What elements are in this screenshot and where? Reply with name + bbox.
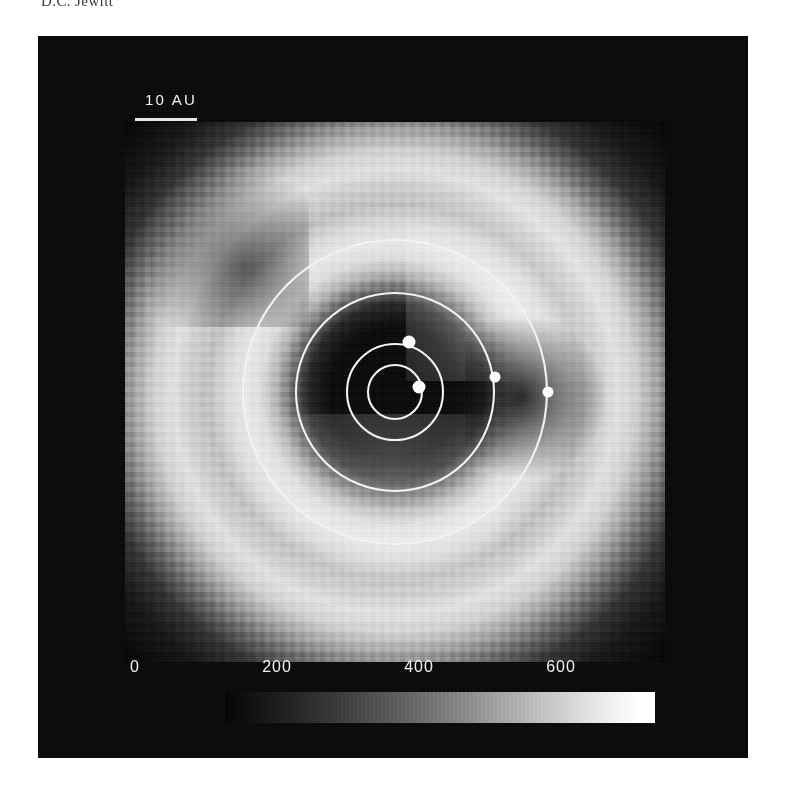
running-head: D.C. Jewitt [41, 0, 113, 10]
scale-bar: 10 AU [135, 91, 207, 121]
disk-bright-lobe-northeast [406, 154, 644, 381]
disk-dark-notch [147, 176, 309, 327]
colorbar-gradient [225, 692, 655, 723]
disk-pixelation-texture [125, 122, 665, 662]
figure-image-panel: 10 AU 0 200 400 600 [38, 36, 748, 758]
disk-dark-gap [465, 316, 605, 478]
colorbar-tick-0: 0 [130, 658, 140, 676]
colorbar-grain-texture [225, 692, 655, 723]
colorbar: 0 200 400 600 [38, 658, 748, 736]
colorbar-tick-600: 600 [546, 658, 576, 676]
colorbar-tick-200: 200 [262, 658, 292, 676]
colorbar-tick-400: 400 [404, 658, 434, 676]
scale-bar-rule [135, 118, 197, 121]
scale-bar-label: 10 AU [135, 91, 207, 108]
colorbar-tick-labels: 0 200 400 600 [38, 658, 748, 682]
debris-disk-image [125, 122, 665, 662]
disk-bright-lobe-southwest [211, 414, 503, 641]
